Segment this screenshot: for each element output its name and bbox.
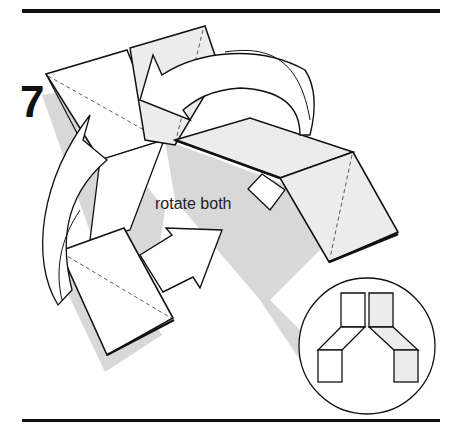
bottom-rule bbox=[22, 419, 440, 422]
instruction-label: rotate both bbox=[155, 195, 232, 213]
diagram-canvas bbox=[0, 0, 459, 444]
origami-step-diagram: 7 rotate both bbox=[0, 0, 459, 444]
result-inset bbox=[299, 278, 435, 414]
top-rule bbox=[22, 9, 440, 13]
step-number: 7 bbox=[20, 80, 44, 124]
